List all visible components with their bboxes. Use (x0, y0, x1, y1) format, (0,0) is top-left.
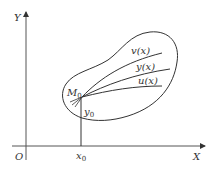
diagram-canvas: Y X O M0 y0 x0 v(x) y(x) u(x) (0, 0, 220, 171)
x0-label: x0 (76, 150, 86, 163)
curve-v-label: v(x) (131, 45, 150, 56)
y-axis-label: Y (14, 12, 22, 23)
origin-label: O (15, 151, 23, 162)
point-label: M0 (66, 87, 82, 100)
curve-y-label: y(x) (135, 61, 155, 72)
curve-u-label: u(x) (138, 75, 158, 86)
region-boundary (63, 32, 178, 121)
x-axis-label: X (192, 151, 201, 162)
y0-label: y0 (83, 106, 94, 119)
